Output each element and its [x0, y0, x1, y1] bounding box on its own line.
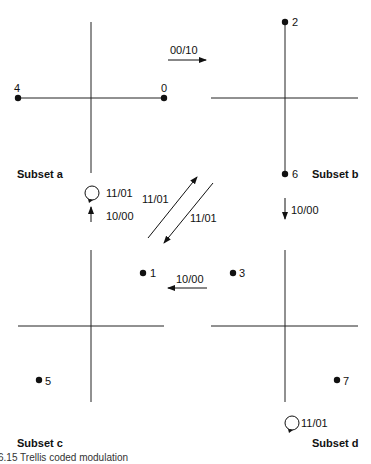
subset-a-axes [18, 22, 164, 173]
point-label-1: 1 [150, 267, 156, 279]
point-1 [140, 270, 146, 276]
point-label-2: 2 [292, 16, 298, 28]
point-6 [282, 171, 288, 177]
figure-caption: 6.15 Trellis coded modulation [0, 452, 128, 464]
transition-label-c-to-b: 11/01 [142, 193, 169, 205]
self-loop-label-a: 11/01 [106, 187, 133, 199]
point-3 [230, 270, 236, 276]
subset-c-title: Subset c [17, 437, 63, 449]
arrow-c-to-b [148, 177, 197, 238]
self-loop-label-d: 11/01 [301, 417, 328, 429]
self-loop-a-icon [85, 186, 99, 203]
point-label-6: 6 [292, 168, 298, 180]
transition-label-d-to-c: 10/00 [176, 273, 204, 285]
point-label-5: 5 [45, 375, 51, 387]
point-0 [161, 95, 167, 101]
self-loop-d-icon [285, 416, 299, 433]
transition-label-b-to-c: 11/01 [190, 212, 217, 224]
point-4 [15, 95, 21, 101]
subset-a-title: Subset a [17, 168, 63, 180]
point-label-4: 4 [14, 82, 20, 94]
point-7 [334, 377, 340, 383]
point-label-7: 7 [343, 375, 349, 387]
point-label-3: 3 [239, 267, 245, 279]
point-label-0: 0 [161, 82, 167, 94]
point-2 [282, 19, 288, 25]
transition-label-c-to-a: 10/00 [106, 210, 134, 222]
subset-b-axes [211, 22, 358, 173]
subset-d-title: Subset d [312, 437, 358, 449]
point-5 [36, 377, 42, 383]
subset-b-title: Subset b [312, 168, 358, 180]
transition-label-a-to-b: 00/10 [170, 44, 198, 56]
transition-label-b-to-d: 10/00 [291, 204, 319, 216]
